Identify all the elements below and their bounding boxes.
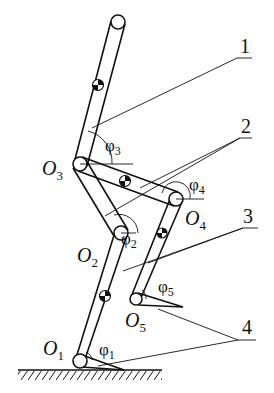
svg-text:φ3: φ3 bbox=[105, 136, 121, 158]
label-O1: O bbox=[43, 337, 57, 359]
label-phi3: φ bbox=[105, 136, 115, 155]
label-O3: O bbox=[42, 157, 56, 179]
label-phi1: φ bbox=[99, 340, 109, 359]
svg-text:φ2: φ2 bbox=[121, 229, 137, 251]
callout-labels: 1 2 3 4 bbox=[240, 35, 253, 338]
svg-text:φ1: φ1 bbox=[99, 340, 115, 362]
kinematic-diagram: 1 2 3 4 O3 O4 O2 O5 O1 φ3 φ4 φ2 φ5 φ1 bbox=[0, 0, 274, 393]
label-phi5: φ bbox=[158, 277, 168, 296]
svg-text:O3: O3 bbox=[42, 157, 63, 183]
callout-2: 2 bbox=[241, 115, 251, 137]
label-phi4: φ bbox=[189, 175, 199, 194]
callout-3: 3 bbox=[243, 205, 253, 227]
com-swing-shank-icon bbox=[157, 228, 167, 238]
label-phi2: φ bbox=[121, 229, 131, 248]
label-O2: O bbox=[77, 244, 91, 266]
joint-O5 bbox=[130, 293, 142, 305]
label-O5: O bbox=[125, 309, 139, 331]
com-torso-icon bbox=[93, 80, 104, 91]
callout-1: 1 bbox=[240, 35, 250, 57]
joint-O1 bbox=[73, 354, 87, 368]
diagram-canvas: 1 2 3 4 O3 O4 O2 O5 O1 φ3 φ4 φ2 φ5 φ1 bbox=[0, 0, 274, 393]
com-swing-thigh-icon bbox=[120, 176, 131, 187]
svg-text:O5: O5 bbox=[125, 309, 146, 335]
svg-text:φ5: φ5 bbox=[158, 277, 174, 299]
angle-labels: φ3 φ4 φ2 φ5 φ1 bbox=[99, 136, 205, 362]
svg-text:O2: O2 bbox=[77, 244, 98, 270]
label-O4: O bbox=[185, 207, 199, 229]
ground bbox=[18, 370, 162, 380]
link-swing-shank bbox=[131, 199, 182, 300]
callout-4: 4 bbox=[242, 316, 252, 338]
svg-text:O4: O4 bbox=[185, 207, 206, 233]
svg-text:O1: O1 bbox=[43, 337, 64, 363]
com-stance-shank-icon bbox=[100, 291, 111, 302]
svg-text:φ4: φ4 bbox=[189, 175, 205, 197]
